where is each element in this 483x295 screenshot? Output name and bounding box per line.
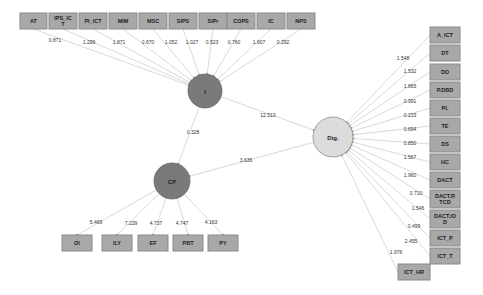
loading-value: 7.239 xyxy=(125,220,138,226)
loading-edge xyxy=(352,142,430,162)
loading-edge xyxy=(348,53,430,124)
latent-node-cp[interactable]: CP xyxy=(154,163,190,199)
indicator-ily[interactable]: ILY xyxy=(102,235,132,251)
indicator-label: IC xyxy=(268,18,274,24)
indicator-label: MSC xyxy=(147,18,159,24)
indicator-cops[interactable]: COPS xyxy=(227,13,255,29)
indicator-nps[interactable]: NPS xyxy=(287,13,315,29)
indicator-te[interactable]: TE xyxy=(430,118,460,134)
indicator-label: SIPS xyxy=(177,18,190,24)
loading-value: 0.292 xyxy=(277,39,290,45)
loading-value: 1.546 xyxy=(412,205,425,211)
indicator-mim[interactable]: MIM xyxy=(109,13,137,29)
indicator-label: PY xyxy=(219,240,227,246)
path-edge xyxy=(178,107,199,164)
indicator-msc[interactable]: MSC xyxy=(139,13,167,29)
indicator-pi_ict[interactable]: PI_ICT xyxy=(79,13,107,29)
loading-value: 0.523 xyxy=(206,39,219,45)
indicator-hc[interactable]: HC xyxy=(430,154,460,170)
loading-edge xyxy=(352,108,430,131)
indicator-pl[interactable]: PL xyxy=(430,100,460,116)
indicator-label: PBT xyxy=(183,240,195,246)
sem-path-diagram: 0.8711.2991.8710.6701.0521.0270.5230.760… xyxy=(0,0,483,295)
loading-edge xyxy=(77,190,156,235)
indicator-do[interactable]: DO xyxy=(430,64,460,80)
loading-edge xyxy=(217,29,271,79)
path-coefficient: 12.513 xyxy=(260,112,276,118)
indicator-label: TCD xyxy=(439,199,450,205)
loading-value: 5.469 xyxy=(90,219,103,225)
indicator-ips_ict[interactable]: IPS_ICT xyxy=(49,13,77,29)
indicator-label: ICT_T xyxy=(437,253,453,259)
loading-value: 0.871 xyxy=(49,37,62,43)
indicator-dact.rtcd[interactable]: DACT.RTCD xyxy=(430,190,460,208)
loading-edge xyxy=(350,72,430,126)
path-coefficient: 3.636 xyxy=(240,157,253,163)
indicator-dact[interactable]: DACT xyxy=(430,172,460,188)
latent-node-dig[interactable]: Dig. xyxy=(313,117,353,157)
indicator-py[interactable]: PY xyxy=(208,235,238,251)
loading-value: 0.499 xyxy=(408,223,421,229)
indicator-ef[interactable]: EF xyxy=(138,235,168,251)
loading-edge xyxy=(184,194,223,235)
indicator-dt[interactable]: DT xyxy=(430,45,460,61)
loading-value: 0.233 xyxy=(404,112,417,118)
indicator-label: A_ICT xyxy=(437,32,454,38)
loading-value: 4.737 xyxy=(150,220,163,226)
indicator-label: SIPr xyxy=(207,18,219,24)
loading-value: 0.991 xyxy=(404,98,417,104)
loading-edge xyxy=(351,90,430,128)
loading-edge xyxy=(153,198,166,235)
indicator-ict_t[interactable]: ICT_T xyxy=(430,248,460,264)
indicator-ict_p[interactable]: ICT_P xyxy=(430,230,460,246)
indicator-sipr[interactable]: SIPr xyxy=(199,13,227,29)
loading-value: 0.670 xyxy=(142,39,155,45)
indicators-layer: ATIPS_ICTPI_ICTMIMMSCSIPSSIPrCOPSICNPSA_… xyxy=(20,13,460,280)
loading-edge xyxy=(219,29,301,82)
node-label: Dig. xyxy=(327,135,339,141)
indicator-ds[interactable]: DS xyxy=(430,136,460,152)
loading-edge xyxy=(207,29,213,74)
loading-value: 1.865 xyxy=(404,83,417,89)
loading-edge xyxy=(353,138,430,144)
indicator-at[interactable]: AT xyxy=(20,13,47,29)
loading-value: 4.747 xyxy=(176,220,189,226)
loading-edge xyxy=(63,29,189,84)
latent-node-i[interactable]: I xyxy=(188,74,222,108)
loading-edge xyxy=(347,35,430,123)
indicator-a_ict[interactable]: A_ICT xyxy=(430,27,460,43)
loading-edge xyxy=(117,194,159,235)
indicator-label: MIM xyxy=(118,18,129,24)
indicator-label: OI xyxy=(74,240,80,246)
indicator-label: DS xyxy=(441,141,449,147)
indicator-label: PL xyxy=(441,105,449,111)
node-label: CP xyxy=(168,179,176,185)
indicator-pbt[interactable]: PBT xyxy=(173,235,203,251)
loading-value: 1.960 xyxy=(404,172,417,178)
loading-value: 1.052 xyxy=(165,39,178,45)
path-coefficient: 0.328 xyxy=(187,129,200,135)
loading-value: 1.607 xyxy=(253,39,266,45)
indicator-ic[interactable]: IC xyxy=(257,13,285,29)
loading-value: 1.027 xyxy=(186,39,199,45)
loading-value: 1.871 xyxy=(113,39,126,45)
loading-value: 1.532 xyxy=(404,68,417,74)
loading-edge xyxy=(123,29,191,81)
indicator-label: AT xyxy=(30,18,38,24)
loading-value: 4.163 xyxy=(205,219,218,225)
indicator-label: COPS xyxy=(233,18,249,24)
indicator-label: TE xyxy=(441,123,448,129)
loading-value: 0.760 xyxy=(228,39,241,45)
indicator-dact.iod[interactable]: DACT.IOD xyxy=(430,210,460,228)
loading-value: 1.299 xyxy=(83,39,96,45)
indicator-sips[interactable]: SIPS xyxy=(169,13,197,29)
indicator-label: DO xyxy=(441,69,450,75)
indicator-ict_hr[interactable]: ICT_HR xyxy=(398,264,430,280)
indicator-label: DT xyxy=(441,50,449,56)
indicator-oi[interactable]: OI xyxy=(62,235,92,251)
loading-value: 0.850 xyxy=(404,140,417,146)
indicator-p.dbd[interactable]: P.DBD xyxy=(430,82,460,98)
loading-value: 0.694 xyxy=(404,126,417,132)
indicator-label: ICT_P xyxy=(437,235,453,241)
loading-value: 1.548 xyxy=(397,55,410,61)
